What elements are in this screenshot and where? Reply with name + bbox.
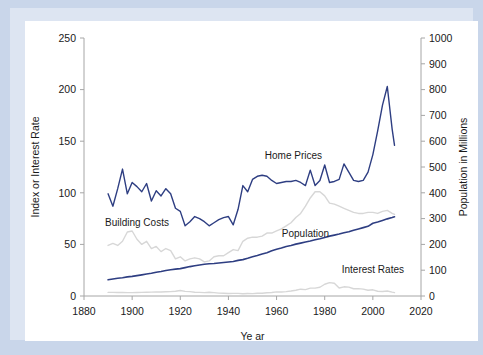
x-axis-title: Ye ar (240, 330, 265, 341)
y-axis-title-left: Index or Interest Rate (29, 116, 41, 217)
y-tick-label-right: 600 (429, 135, 447, 147)
y-tick-label-left: 50 (64, 238, 76, 250)
y-tick-label-right: 700 (429, 109, 447, 121)
series-annotation-home-prices: Home Prices (265, 150, 322, 161)
series-layer (108, 87, 394, 294)
y-tick-label-left: 150 (58, 135, 76, 147)
y-axis-title-right: Population in Millions (457, 118, 469, 217)
y-tick-label-right: 900 (429, 58, 447, 70)
series-annotation-population: Population (282, 228, 329, 239)
x-tick-label: 2020 (409, 305, 433, 317)
x-tick-label: 1980 (313, 305, 337, 317)
y-tick-label-left: 100 (58, 187, 76, 199)
x-tick-label: 1920 (169, 305, 193, 317)
series-line-home-prices (108, 87, 394, 226)
y-tick-label-right: 800 (429, 83, 447, 95)
labels-layer: 1880190019201940196019802000202005010015… (29, 32, 469, 341)
y-tick-label-right: 400 (429, 187, 447, 199)
x-tick-label: 2000 (361, 305, 385, 317)
series-annotation-building-costs: Building Costs (105, 217, 169, 228)
y-tick-label-right: 100 (429, 264, 447, 276)
x-tick-label: 1900 (120, 305, 144, 317)
y-tick-label-right: 200 (429, 238, 447, 250)
series-annotation-interest-rates: Interest Rates (342, 264, 404, 275)
y-tick-label-left: 0 (70, 290, 76, 302)
y-tick-label-right: 1000 (429, 32, 453, 44)
y-tick-label-right: 0 (429, 290, 435, 302)
y-tick-label-right: 500 (429, 161, 447, 173)
y-tick-label-left: 200 (58, 83, 76, 95)
figure-frame: Home PricesBuilding CostsPopulationInter… (0, 0, 483, 355)
axes-layer (80, 38, 425, 300)
y-tick-label-left: 250 (58, 32, 76, 44)
x-tick-label: 1960 (265, 305, 289, 317)
figure-inner-border: Home PricesBuilding CostsPopulationInter… (10, 8, 473, 340)
x-tick-label: 1880 (72, 305, 96, 317)
y-tick-label-right: 300 (429, 212, 447, 224)
series-line-interest-rates (108, 283, 394, 294)
chart-canvas-area: Home PricesBuilding CostsPopulationInter… (25, 21, 478, 341)
x-tick-label: 1940 (217, 305, 241, 317)
shiller-home-price-chart: Home PricesBuilding CostsPopulationInter… (25, 21, 478, 341)
